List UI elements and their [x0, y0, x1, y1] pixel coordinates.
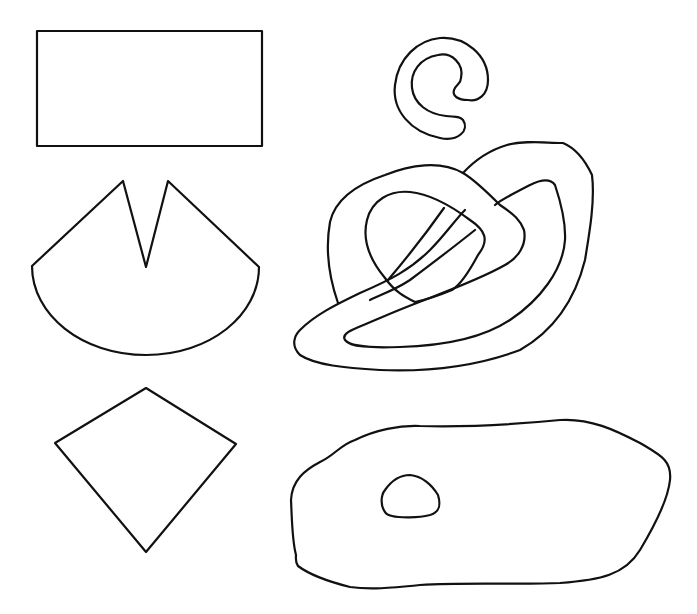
rectangle-shape	[37, 31, 262, 146]
figure-canvas	[0, 0, 697, 614]
knot-outer-strand	[328, 165, 565, 347]
knot-inner-loop	[366, 192, 485, 302]
knot-cross-strand-2	[370, 230, 475, 300]
notched-sector-shape	[32, 181, 259, 355]
blob-outer-shape	[291, 420, 670, 589]
spiral-shape	[395, 38, 488, 139]
knot-big-loop	[294, 142, 593, 370]
shapes-svg	[0, 0, 697, 614]
kite-shape	[55, 388, 236, 552]
blob-hole-shape	[382, 475, 440, 517]
